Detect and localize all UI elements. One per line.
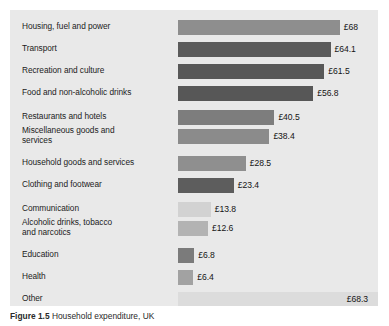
bar-rect [178,156,246,171]
bar-row: Transport£64.1 [10,40,378,62]
bar-rect [178,42,331,57]
bar-row: Food and non-alcoholic drinks£56.8 [10,84,378,106]
bar-track: £38.4 [178,127,378,149]
figure-caption-label: Figure 1.5 [10,311,50,321]
bar-value-label: £40.5 [278,110,299,125]
bar-rect [178,270,193,285]
bar-rect [178,86,313,101]
bar-rect [178,248,194,263]
bar-value-label: £12.6 [212,221,233,236]
bar-track: £12.6 [178,219,378,241]
bar-row: Clothing and footwear£23.4 [10,176,378,198]
bar-category-label: Miscellaneous goods and services [22,125,180,145]
bar-value-label: £13.8 [215,202,236,217]
bar-category-label: Alcoholic drinks, tobacco and narcotics [22,217,180,237]
bar-track: £28.5 [178,154,378,176]
bar-row: Housing, fuel and power£68 [10,18,378,40]
bar-category-label: Other [22,293,180,303]
bar-rect [178,178,234,193]
bar-rect [178,110,274,125]
bar-category-label: Communication [22,203,180,213]
bar-category-label: Restaurants and hotels [22,111,180,121]
bar-value-label: £68.3 [347,292,368,306]
bar-value-label: £23.4 [238,178,259,193]
bar-rect [178,221,208,236]
figure-caption: Figure 1.5 Household expenditure, UK [10,311,380,322]
bar-track: £64.1 [178,40,378,62]
bar-row: Other£68.3 [10,290,378,306]
figure-household-expenditure: Housing, fuel and power£68Transport£64.1… [0,0,389,326]
bar-row: Education£6.8 [10,246,378,268]
bar-category-label: Education [22,249,180,259]
bar-track: £68.3 [178,290,378,306]
bar-track: £68 [178,18,378,40]
bar-category-label: Household goods and services [22,157,180,167]
bar-value-label: £61.5 [328,64,349,79]
bar-track: £6.8 [178,246,378,268]
bar-track: £61.5 [178,62,378,84]
bar-track: £56.8 [178,84,378,106]
bar-category-label: Food and non-alcoholic drinks [22,87,180,97]
bar-list: Housing, fuel and power£68Transport£64.1… [10,10,378,306]
bar-rect [178,20,340,35]
bar-value-label: £28.5 [250,156,271,171]
chart-plot-area: Housing, fuel and power£68Transport£64.1… [10,10,378,306]
bar-category-label: Recreation and culture [22,65,180,75]
bar-rect [178,129,269,144]
bar-category-label: Clothing and footwear [22,179,180,189]
bar-category-label: Health [22,271,180,281]
bar-value-label: £6.4 [197,270,214,285]
bar-rect [178,64,324,79]
bar-rect [178,202,211,217]
bar-row: Health£6.4 [10,268,378,290]
figure-caption-text: Household expenditure, UK [52,311,154,321]
bar-value-label: £6.8 [198,248,215,263]
bar-row: Miscellaneous goods and services£38.4 [10,127,378,149]
bar-value-label: £56.8 [317,86,338,101]
bar-row: Recreation and culture£61.5 [10,62,378,84]
bar-value-label: £38.4 [273,129,294,144]
bar-row: Alcoholic drinks, tobacco and narcotics£… [10,219,378,241]
bar-category-label: Transport [22,43,180,53]
bar-value-label: £68 [344,20,358,35]
bar-row: Household goods and services£28.5 [10,154,378,176]
bar-track: £6.4 [178,268,378,290]
bar-track: £23.4 [178,176,378,198]
bar-value-label: £64.1 [335,42,356,57]
bar-category-label: Housing, fuel and power [22,21,180,31]
